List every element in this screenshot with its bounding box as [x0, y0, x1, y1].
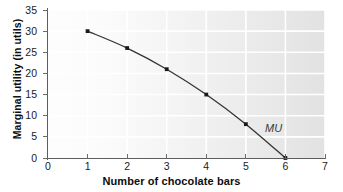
- x-tick-label: 0: [38, 161, 58, 172]
- data-point: [86, 29, 90, 33]
- x-tick: [166, 154, 167, 159]
- data-point: [125, 46, 129, 50]
- x-tick-label: 7: [315, 161, 335, 172]
- y-tick: [43, 10, 48, 11]
- x-tick-label: 3: [157, 161, 177, 172]
- y-tick: [43, 158, 48, 159]
- x-tick-label: 1: [78, 161, 98, 172]
- y-tick: [43, 115, 48, 116]
- x-tick: [87, 154, 88, 159]
- y-tick: [43, 31, 48, 32]
- chart-figure: 0510152025303501234567 MU Number of choc…: [0, 0, 343, 192]
- series-line-mu: [88, 31, 286, 158]
- y-tick: [43, 73, 48, 74]
- data-point: [244, 122, 248, 126]
- y-axis-title: Marginal utility (in utils): [11, 0, 23, 159]
- x-axis-title: Number of chocolate bars: [0, 175, 343, 187]
- y-tick: [43, 136, 48, 137]
- plot-area: [48, 10, 325, 158]
- x-tick: [325, 154, 326, 159]
- x-tick-label: 5: [236, 161, 256, 172]
- data-point: [165, 67, 169, 71]
- x-tick-label: 4: [196, 161, 216, 172]
- x-tick-label: 2: [117, 161, 137, 172]
- x-tick: [206, 154, 207, 159]
- series-mu: [48, 10, 325, 158]
- x-tick: [245, 154, 246, 159]
- x-tick-label: 6: [275, 161, 295, 172]
- y-tick: [43, 52, 48, 53]
- series-label-mu: MU: [265, 122, 282, 134]
- x-tick: [285, 154, 286, 159]
- y-tick: [43, 94, 48, 95]
- data-point: [204, 93, 208, 97]
- x-tick: [127, 154, 128, 159]
